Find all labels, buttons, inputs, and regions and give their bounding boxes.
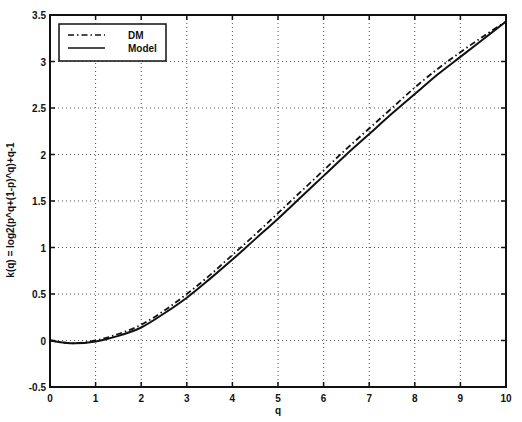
y-tick-label: 0.5 [32, 289, 46, 300]
line-chart: 012345678910 -0.500.511.522.533.5 q k(q)… [0, 0, 522, 422]
x-tick-label: 4 [230, 393, 236, 404]
x-tick-label: 3 [184, 393, 190, 404]
x-tick-label: 7 [366, 393, 372, 404]
y-tick-label: 0 [40, 336, 46, 347]
y-tick-label: -0.5 [29, 382, 47, 393]
x-tick-label: 2 [138, 393, 144, 404]
x-tick-label: 10 [500, 393, 512, 404]
x-axis-label: q [275, 405, 281, 416]
legend-label-dm: DM [128, 30, 144, 41]
y-tick-label: 2 [40, 150, 46, 161]
y-axis-label: k(q) = log2(p^q+(1-p)^q)+q-1 [5, 142, 16, 278]
x-tick-label: 1 [93, 393, 99, 404]
x-tick-label: 9 [458, 393, 464, 404]
y-axis-tick-labels: -0.500.511.522.533.5 [29, 10, 47, 393]
legend: DM Model [59, 24, 166, 61]
grid-lines [50, 15, 506, 387]
y-tick-label: 1.5 [32, 196, 46, 207]
legend-label-model: Model [128, 43, 157, 54]
y-tick-label: 3 [40, 57, 46, 68]
x-tick-label: 5 [275, 393, 281, 404]
x-axis-tick-labels: 012345678910 [47, 393, 512, 404]
y-tick-label: 3.5 [32, 10, 46, 21]
x-tick-label: 0 [47, 393, 53, 404]
y-tick-label: 2.5 [32, 103, 46, 114]
x-tick-label: 6 [321, 393, 327, 404]
y-tick-label: 1 [40, 243, 46, 254]
x-tick-label: 8 [412, 393, 418, 404]
